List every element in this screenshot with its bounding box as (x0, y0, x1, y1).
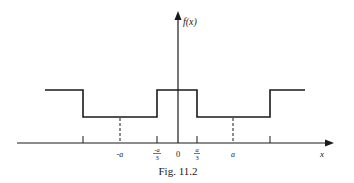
step-function-curve (45, 90, 305, 117)
y-axis-arrow-icon (175, 11, 182, 20)
figure-caption: Fig. 11.2 (158, 165, 197, 177)
tick-label-neg-a3-denominator: 3 (155, 154, 158, 161)
tick-label-neg-a: -a (117, 150, 124, 159)
y-axis-label: f(x) (183, 16, 198, 28)
x-axis-label: x (319, 149, 324, 159)
origin-label: 0 (176, 149, 180, 159)
tick-label-neg-a3-numerator: -a (154, 146, 159, 153)
tick-label-a: a (231, 150, 235, 159)
tick-label-a3-denominator: 3 (195, 154, 198, 161)
step-function-diagram: f(x) x -a -a 3 0 a 3 a Fig. 11.2 (0, 0, 354, 183)
tick-label-a3-numerator: a (195, 146, 198, 153)
x-axis-arrow-icon (325, 140, 334, 147)
